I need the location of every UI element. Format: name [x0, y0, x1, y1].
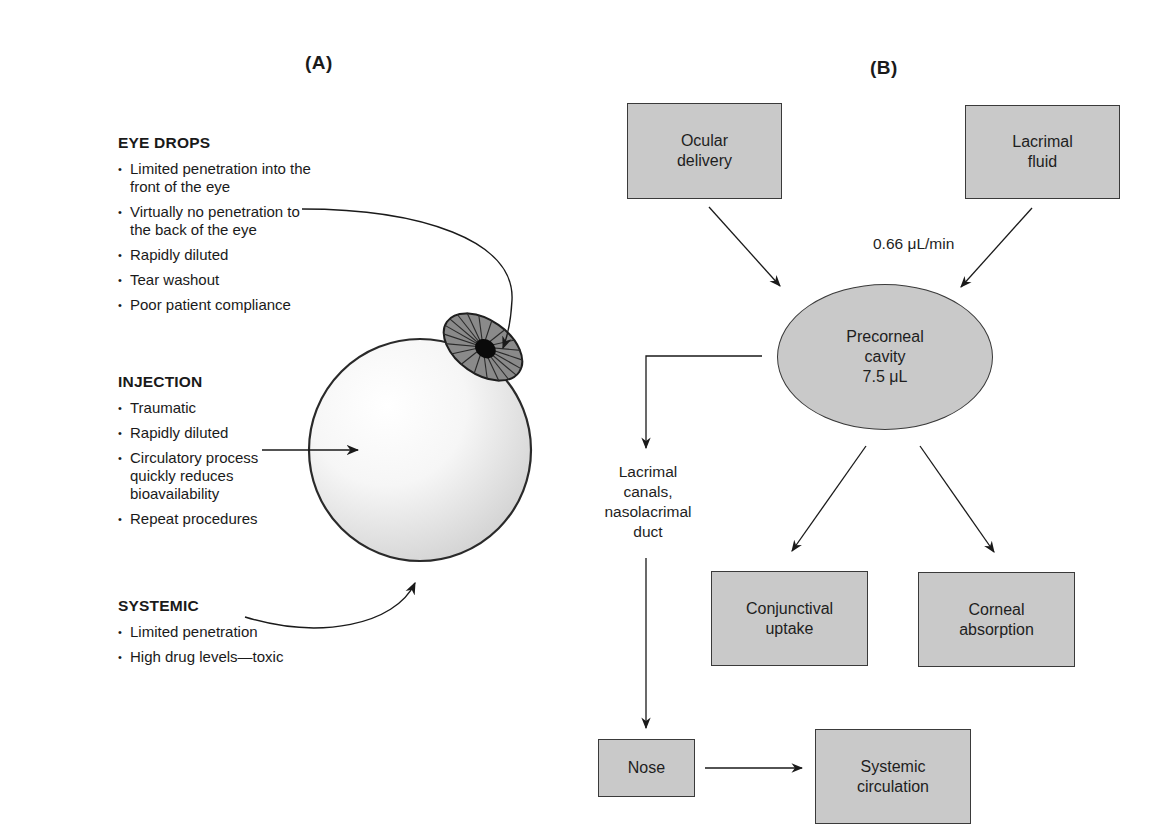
precorneal-to-drainage-arrow: [646, 356, 762, 448]
section-systemic: SYSTEMIC Limited penetration High drug l…: [118, 597, 318, 673]
section-heading: SYSTEMIC: [118, 597, 318, 615]
bullet-item: Tear washout: [118, 271, 318, 289]
bullet-item: Rapidly diluted: [118, 246, 318, 264]
bullet-item: Rapidly diluted: [118, 424, 318, 442]
section-injection: INJECTION Traumatic Rapidly diluted Circ…: [118, 373, 318, 535]
node-nose: Nose: [598, 739, 695, 797]
bullet-list: Limited penetration High drug levels—tox…: [118, 623, 318, 666]
precorneal-to-corneal-arrow: [920, 446, 994, 552]
bullet-list: Limited penetration into the front of th…: [118, 160, 318, 314]
node-ocular-delivery: Ocular delivery: [627, 103, 782, 199]
node-conjunctival-uptake: Conjunctival uptake: [711, 571, 868, 666]
eye-drops-arrow: [302, 209, 512, 348]
pupil-icon: [471, 335, 499, 362]
bullet-list: Traumatic Rapidly diluted Circulatory pr…: [118, 399, 318, 528]
bullet-item: Repeat procedures: [118, 510, 318, 528]
node-corneal-absorption: Corneal absorption: [918, 572, 1075, 667]
section-heading: EYE DROPS: [118, 134, 318, 152]
ocular-to-precorneal-arrow: [709, 207, 780, 286]
bullet-item: Limited penetration into the front of th…: [118, 160, 318, 196]
precorneal-volume: 7.5 μL: [863, 367, 908, 387]
section-heading: INJECTION: [118, 373, 318, 391]
eyeball-illustration: [309, 300, 535, 561]
node-systemic-circulation: Systemic circulation: [815, 729, 971, 824]
node-lacrimal-fluid: Lacrimal fluid: [965, 105, 1120, 199]
drainage-route-label: Lacrimal canals, nasolacrimal duct: [598, 462, 698, 542]
node-precorneal-cavity: Precorneal cavity 7.5 μL: [777, 284, 993, 430]
panel-b-label: (B): [870, 57, 898, 79]
bullet-item: Traumatic: [118, 399, 318, 417]
precorneal-title: Precorneal: [846, 327, 923, 347]
section-eye-drops: EYE DROPS Limited penetration into the f…: [118, 134, 318, 321]
bullet-item: Circulatory process quickly reduces bioa…: [118, 449, 280, 503]
lacrimal-flow-rate-label: 0.66 μL/min: [873, 234, 954, 254]
lacrimal-to-precorneal-arrow: [961, 208, 1032, 287]
bullet-item: Virtually no penetration to the back of …: [118, 203, 318, 239]
precorneal-subtitle: cavity: [865, 347, 906, 367]
bullet-item: High drug levels—toxic: [118, 648, 318, 666]
panel-a-label: (A): [305, 52, 333, 74]
precorneal-to-conjunctival-arrow: [792, 446, 866, 551]
bullet-item: Poor patient compliance: [118, 296, 318, 314]
iris-icon: [431, 300, 534, 395]
bullet-item: Limited penetration: [118, 623, 318, 641]
